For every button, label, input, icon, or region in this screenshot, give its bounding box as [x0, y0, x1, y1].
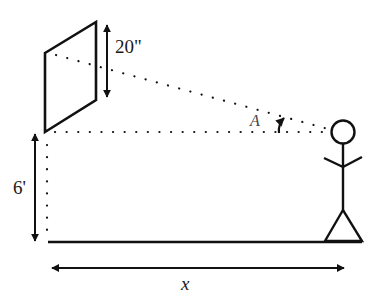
screen-height-label: 20"	[115, 36, 142, 58]
person-head	[332, 121, 355, 144]
angle-arc-icon	[279, 118, 284, 133]
angle-label: A	[250, 112, 260, 130]
sight-line-top	[56, 55, 332, 130]
diagram: 20" 6' A x	[0, 0, 380, 296]
screen-shape	[45, 22, 96, 132]
person-figure	[324, 121, 362, 242]
distance-label: x	[181, 273, 189, 295]
diagram-canvas	[0, 0, 380, 296]
person-legs	[325, 210, 362, 241]
mount-height-label: 6'	[13, 177, 26, 199]
